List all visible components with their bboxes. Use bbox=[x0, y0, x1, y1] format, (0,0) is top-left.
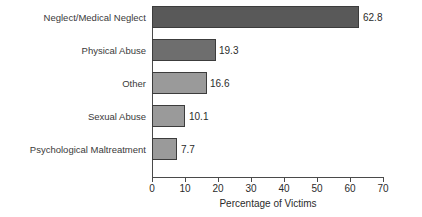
bar-row: Neglect/Medical Neglect 62.8 bbox=[0, 6, 422, 28]
x-tick bbox=[251, 178, 252, 182]
x-tick-label: 50 bbox=[311, 183, 322, 195]
x-tick-label: 40 bbox=[278, 183, 289, 195]
bar-value-label: 10.1 bbox=[189, 111, 208, 122]
bar bbox=[152, 6, 359, 28]
x-tick bbox=[218, 178, 219, 182]
bar bbox=[152, 39, 216, 61]
bar-row: Physical Abuse 19.3 bbox=[0, 39, 422, 61]
x-tick bbox=[284, 178, 285, 182]
bar bbox=[152, 138, 177, 160]
x-tick bbox=[152, 178, 153, 182]
x-tick-label: 10 bbox=[179, 183, 190, 195]
category-label: Physical Abuse bbox=[82, 45, 146, 56]
bar-value-label: 7.7 bbox=[181, 144, 195, 155]
category-label: Sexual Abuse bbox=[88, 111, 146, 122]
x-tick-label: 70 bbox=[377, 183, 388, 195]
category-label: Psychological Maltreatment bbox=[30, 144, 146, 155]
category-label: Neglect/Medical Neglect bbox=[44, 12, 146, 23]
x-tick-label: 20 bbox=[212, 183, 223, 195]
x-tick-label: 0 bbox=[149, 183, 155, 195]
bar bbox=[152, 72, 207, 94]
x-tick bbox=[350, 178, 351, 182]
x-axis-title: Percentage of Victims bbox=[152, 198, 384, 210]
bar-value-label: 19.3 bbox=[219, 45, 238, 56]
bar-value-label: 62.8 bbox=[363, 12, 382, 23]
bar-row: Other 16.6 bbox=[0, 72, 422, 94]
category-label: Other bbox=[122, 78, 146, 89]
x-tick bbox=[317, 178, 318, 182]
x-tick-label: 30 bbox=[245, 183, 256, 195]
bar-value-label: 16.6 bbox=[210, 78, 229, 89]
bar bbox=[152, 105, 185, 127]
x-tick bbox=[383, 178, 384, 182]
bars-container: Neglect/Medical Neglect 62.8 Physical Ab… bbox=[0, 0, 422, 172]
x-tick bbox=[185, 178, 186, 182]
bar-row: Psychological Maltreatment 7.7 bbox=[0, 138, 422, 160]
bar-chart: Neglect/Medical Neglect 62.8 Physical Ab… bbox=[0, 0, 422, 217]
bar-row: Sexual Abuse 10.1 bbox=[0, 105, 422, 127]
x-tick-label: 60 bbox=[344, 183, 355, 195]
